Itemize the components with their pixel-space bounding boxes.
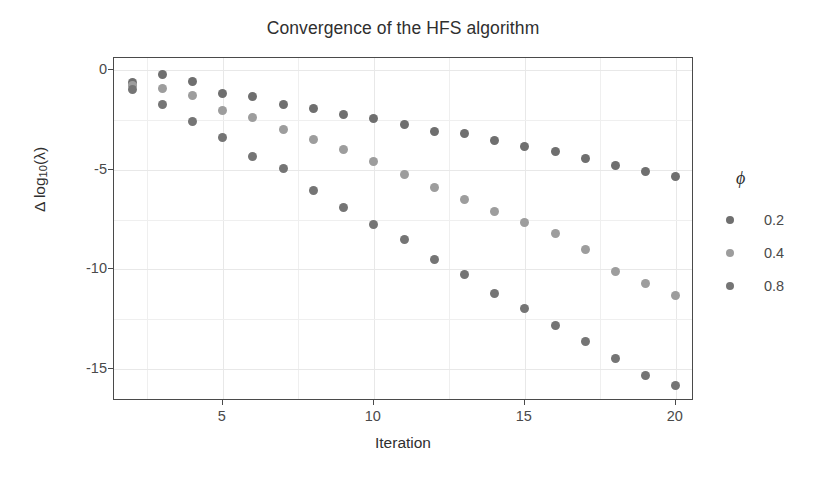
legend-item[interactable]: 0.2 [716, 203, 834, 236]
gridline-vertical-major [525, 58, 526, 399]
y-tick-label: -15 [7, 360, 107, 376]
gridline-horizontal-major [114, 369, 692, 370]
y-axis-label-tail: (λ) [31, 147, 48, 165]
data-point [188, 117, 197, 126]
y-tick-label: -5 [7, 161, 107, 177]
y-tick-mark [108, 368, 113, 369]
data-point [671, 291, 680, 300]
page-title: Convergence of the HFS algorithm [113, 18, 693, 39]
y-tick-label: 0 [7, 61, 107, 77]
legend-key [716, 249, 744, 257]
y-tick-mark [108, 69, 113, 70]
data-point [279, 125, 288, 134]
data-point [309, 186, 318, 195]
y-axis-label-subscript: 10 [37, 165, 49, 177]
data-point [611, 354, 620, 363]
data-point [551, 147, 560, 156]
data-point [339, 110, 348, 119]
data-point [369, 220, 378, 229]
data-point [551, 229, 560, 238]
y-tick-label: -10 [7, 260, 107, 276]
gridline-horizontal-minor [114, 220, 692, 221]
data-point [520, 142, 529, 151]
x-tick-label: 5 [192, 408, 252, 424]
gridline-vertical-minor [298, 58, 299, 399]
legend-rows: 0.20.40.8 [716, 203, 834, 302]
data-point [581, 245, 590, 254]
gridline-vertical-minor [600, 58, 601, 399]
legend-item-label: 0.2 [764, 212, 784, 228]
data-point [128, 85, 137, 94]
data-point [641, 167, 650, 176]
legend-dot-icon [726, 282, 734, 290]
gridline-horizontal-major [114, 269, 692, 270]
legend-item[interactable]: 0.8 [716, 269, 834, 302]
data-point [369, 157, 378, 166]
data-point [309, 104, 318, 113]
gridline-horizontal-minor [114, 319, 692, 320]
data-point [248, 152, 257, 161]
y-axis-label-delta: Δ log [31, 177, 48, 212]
y-axis-label: Δ log10(λ) [31, 79, 50, 279]
legend-dot-icon [726, 216, 734, 224]
data-point [158, 100, 167, 109]
gridline-horizontal-major [114, 70, 692, 71]
gridline-vertical-major [676, 58, 677, 399]
data-point [248, 92, 257, 101]
x-tick-mark [524, 400, 525, 405]
x-tick-mark [675, 400, 676, 405]
data-point [671, 381, 680, 390]
data-point [520, 304, 529, 313]
gridline-vertical-minor [147, 58, 148, 399]
data-point [641, 371, 650, 380]
x-tick-mark [222, 400, 223, 405]
data-point [248, 113, 257, 122]
data-point [430, 127, 439, 136]
data-point [430, 183, 439, 192]
data-point [641, 279, 650, 288]
legend-key [716, 282, 744, 290]
data-point [158, 70, 167, 79]
data-point [339, 145, 348, 154]
data-point [520, 218, 529, 227]
x-tick-mark [373, 400, 374, 405]
data-point [218, 89, 227, 98]
chart-figure: Convergence of the HFS algorithm 0-5-10-… [0, 0, 838, 486]
legend-title: ϕ [736, 168, 834, 189]
legend-item[interactable]: 0.4 [716, 236, 834, 269]
legend: ϕ 0.20.40.8 [716, 168, 834, 302]
data-point [279, 100, 288, 109]
data-point [490, 207, 499, 216]
data-point [430, 255, 439, 264]
data-point [218, 133, 227, 142]
data-point [581, 154, 590, 163]
data-point [218, 106, 227, 115]
x-tick-label: 20 [645, 408, 705, 424]
data-point [490, 289, 499, 298]
data-point [400, 235, 409, 244]
x-tick-label: 15 [494, 408, 554, 424]
y-tick-mark [108, 169, 113, 170]
data-point [400, 170, 409, 179]
data-point [581, 337, 590, 346]
data-point [460, 270, 469, 279]
data-point [309, 135, 318, 144]
gridline-vertical-minor [449, 58, 450, 399]
data-point [188, 91, 197, 100]
data-point [400, 120, 409, 129]
data-point [551, 321, 560, 330]
data-point [671, 172, 680, 181]
data-point [369, 114, 378, 123]
data-point [188, 77, 197, 86]
y-tick-mark [108, 268, 113, 269]
x-axis-label: Iteration [113, 434, 693, 452]
data-point [460, 129, 469, 138]
data-point [490, 136, 499, 145]
data-point [611, 267, 620, 276]
data-point [339, 203, 348, 212]
data-point [460, 195, 469, 204]
plot-panel [113, 57, 693, 400]
legend-dot-icon [726, 249, 734, 257]
legend-key [716, 216, 744, 224]
data-point [158, 84, 167, 93]
